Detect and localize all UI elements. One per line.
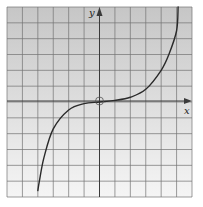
- y-axis-label: y: [88, 7, 95, 18]
- x-axis-label: x: [184, 105, 190, 116]
- cubic-graph: y x: [0, 0, 203, 207]
